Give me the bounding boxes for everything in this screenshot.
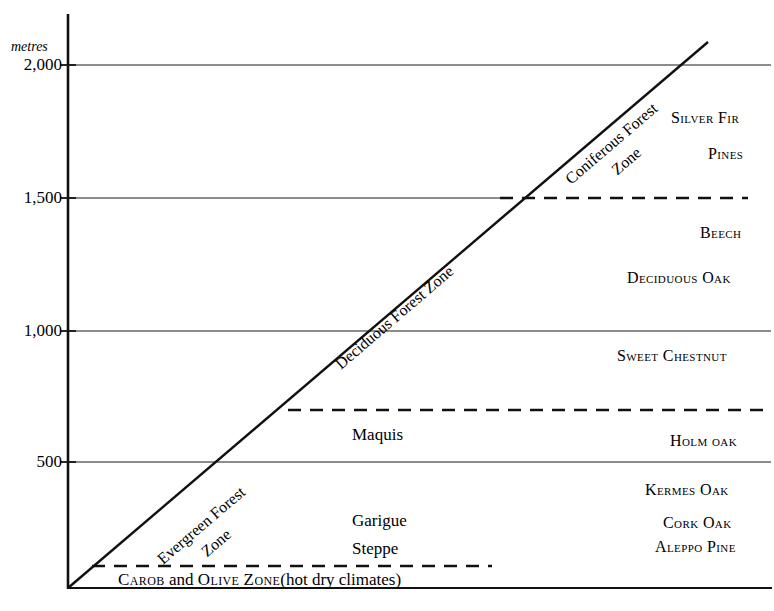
species-label-sweet-chestnut: Sweet Chestnut bbox=[617, 348, 727, 364]
species-label-holm-oak: Holm oak bbox=[670, 433, 737, 449]
species-label-pines: Pines bbox=[708, 146, 743, 162]
species-label-aleppo-pine: Aleppo Pine bbox=[655, 539, 736, 555]
bottom-zone-climate-note: (hot dry climates) bbox=[280, 570, 401, 589]
scrub-label-maquis: Maquis bbox=[352, 426, 403, 443]
bottom-zone-carob: Carob bbox=[118, 570, 165, 589]
y-axis-unit-label: metres bbox=[11, 40, 48, 54]
bottom-zone-olive: Olive bbox=[198, 570, 240, 589]
vegetation-zonation-figure: metres 2,000 1,500 1,000 500 Coniferous … bbox=[0, 0, 774, 611]
species-label-beech: Beech bbox=[700, 225, 741, 241]
species-label-silver-fir: Silver Fir bbox=[671, 110, 739, 126]
scrub-label-garigue: Garigue bbox=[352, 512, 407, 529]
species-label-deciduous-oak: Deciduous Oak bbox=[627, 270, 731, 286]
bottom-zone-label: Carob and Olive Zone(hot dry climates) bbox=[118, 571, 401, 588]
bottom-zone-zone: Zone bbox=[244, 570, 281, 589]
y-tick-label-500: 500 bbox=[12, 453, 62, 470]
species-label-kermes-oak: Kermes Oak bbox=[645, 482, 729, 498]
scrub-label-steppe: Steppe bbox=[352, 540, 398, 557]
bottom-zone-and: and bbox=[169, 570, 194, 589]
y-tick-label-1000: 1,000 bbox=[12, 322, 62, 339]
y-tick-label-1500: 1,500 bbox=[12, 189, 62, 206]
y-tick-label-2000: 2,000 bbox=[12, 56, 62, 73]
species-label-cork-oak: Cork Oak bbox=[663, 515, 732, 531]
